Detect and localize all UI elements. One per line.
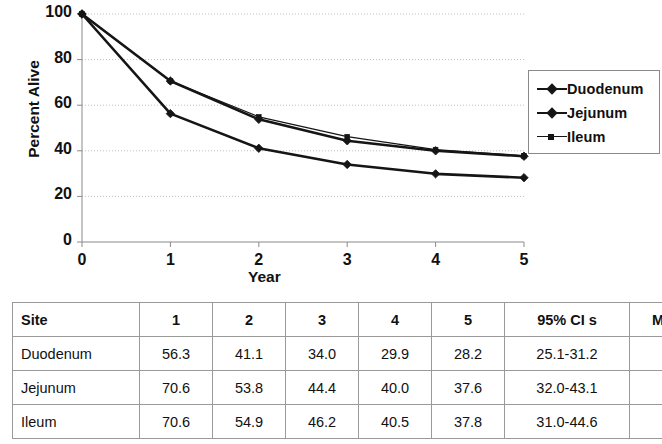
x-tick-label-3: 3 — [332, 251, 362, 269]
legend-label-ileum: Ileum — [567, 129, 605, 145]
cell-year-1: 56.3 — [140, 337, 213, 371]
cell-site: Duodenum — [13, 337, 140, 371]
th-year-5: 5 — [432, 303, 505, 337]
x-tick-label-0: 0 — [67, 251, 97, 269]
cell-median: 16.9 — [630, 337, 662, 371]
th-median: Median — [630, 303, 662, 337]
cell-year-5: 28.2 — [432, 337, 505, 371]
x-tick-label-2: 2 — [244, 251, 274, 269]
x-tick-label-1: 1 — [155, 251, 185, 269]
y-axis-title: Percent Alive — [25, 39, 43, 179]
legend-label-duodenum: Duodenum — [567, 81, 644, 97]
table-row: Ileum 70.6 54.9 46.2 40.5 37.8 31.0-44.6… — [13, 405, 662, 439]
y-tick-label-0: 0 — [30, 231, 72, 249]
table-row: Jejunum 70.6 53.8 44.4 40.0 37.6 32.0-43… — [13, 371, 662, 405]
series-lines-group — [78, 10, 528, 182]
cell-year-4: 40.0 — [359, 371, 432, 405]
cell-year-5: 37.8 — [432, 405, 505, 439]
cell-year-2: 54.9 — [213, 405, 286, 439]
legend-label-jejunum: Jejunum — [567, 105, 627, 121]
x-tick-label-4: 4 — [421, 251, 451, 269]
legend-item-ileum: Ileum — [537, 125, 659, 149]
th-site: Site — [13, 303, 140, 337]
cell-year-3: 46.2 — [286, 405, 359, 439]
cell-year-3: 44.4 — [286, 371, 359, 405]
cell-year-2: 53.8 — [213, 371, 286, 405]
cell-confidence-interval: 32.0-43.1 — [505, 371, 630, 405]
legend-item-jejunum: Jejunum — [537, 101, 659, 125]
cell-median: 30.8 — [630, 405, 662, 439]
th-year-2: 2 — [213, 303, 286, 337]
legend-marker-diamond-icon — [537, 82, 567, 96]
th-year-1: 1 — [140, 303, 213, 337]
th-confidence-interval: 95% CI s — [505, 303, 630, 337]
cell-confidence-interval: 31.0-44.6 — [505, 405, 630, 439]
chart-legend: Duodenum Jejunum Ileum — [528, 70, 660, 154]
survival-chart-page: 100806040200 012345 Percent Alive Year D… — [0, 0, 662, 444]
cell-year-4: 40.5 — [359, 405, 432, 439]
summary-table-wrapper: Site 1 2 3 4 5 95% CI s Median Cases Duo… — [12, 302, 650, 439]
legend-item-duodenum: Duodenum — [537, 77, 659, 101]
cell-year-5: 37.6 — [432, 371, 505, 405]
table-header-row: Site 1 2 3 4 5 95% CI s Median Cases — [13, 303, 662, 337]
cell-site: Ileum — [13, 405, 140, 439]
cell-year-3: 34.0 — [286, 337, 359, 371]
x-axis-title: Year — [248, 268, 281, 286]
cell-year-1: 70.6 — [140, 371, 213, 405]
y-tick-label-20: 20 — [30, 185, 72, 203]
legend-marker-square-icon — [537, 130, 567, 144]
cell-median: 28.9 — [630, 371, 662, 405]
legend-marker-diamond-icon — [537, 106, 567, 120]
cell-year-4: 29.9 — [359, 337, 432, 371]
chart-region: 100806040200 012345 Percent Alive Year D… — [0, 0, 662, 292]
x-tick-label-5: 5 — [509, 251, 539, 269]
th-year-3: 3 — [286, 303, 359, 337]
gridlines-group — [82, 14, 524, 196]
y-tick-label-100: 100 — [30, 3, 72, 21]
table-row: Duodenum 56.3 41.1 34.0 29.9 28.2 25.1-3… — [13, 337, 662, 371]
cell-year-1: 70.6 — [140, 405, 213, 439]
survival-summary-table: Site 1 2 3 4 5 95% CI s Median Cases Duo… — [12, 302, 662, 439]
cell-year-2: 41.1 — [213, 337, 286, 371]
cell-confidence-interval: 25.1-31.2 — [505, 337, 630, 371]
th-year-4: 4 — [359, 303, 432, 337]
cell-site: Jejunum — [13, 371, 140, 405]
